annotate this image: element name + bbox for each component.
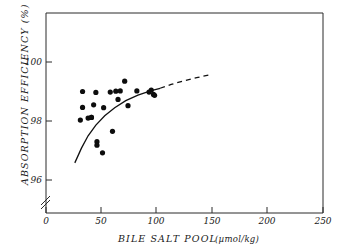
- data-point: [94, 143, 99, 148]
- data-point: [108, 89, 113, 94]
- data-point: [93, 90, 98, 95]
- data-point: [101, 105, 106, 110]
- x-tick-label-150: 150: [203, 216, 220, 226]
- x-tick-label-50: 50: [95, 216, 107, 226]
- x-axis-unit-label: (µmol/kg): [215, 234, 259, 244]
- data-point: [115, 97, 120, 102]
- y-axis-title: ABSORPTION EFFICIENCY (%): [19, 3, 30, 186]
- x-tick-label-200: 200: [257, 216, 275, 226]
- plot-frame: [46, 13, 323, 213]
- data-point: [122, 79, 127, 84]
- y-axis-ticks: [46, 62, 52, 180]
- data-point: [125, 103, 130, 108]
- data-point: [118, 88, 123, 93]
- data-point: [149, 87, 154, 92]
- figure-container: 100 98 96 0 50 100 150 200 250 BILE SALT…: [0, 0, 342, 252]
- data-point: [80, 89, 85, 94]
- x-axis-ticks: [46, 207, 323, 213]
- data-point: [89, 115, 94, 120]
- data-point: [100, 150, 105, 155]
- data-point: [152, 93, 157, 98]
- fit-curve-dashed: [160, 74, 212, 88]
- x-tick-label-0: 0: [43, 216, 49, 226]
- x-axis-title: BILE SALT POOL: [117, 233, 217, 244]
- x-tick-label-250: 250: [313, 216, 331, 226]
- y-tick-label-98: 98: [31, 116, 43, 126]
- data-point: [110, 129, 115, 134]
- data-point: [80, 105, 85, 110]
- x-tick-label-100: 100: [147, 216, 164, 226]
- data-point: [78, 118, 83, 123]
- data-point: [113, 89, 118, 94]
- y-tick-label-96: 96: [31, 175, 43, 185]
- data-point: [134, 88, 139, 93]
- data-point: [91, 102, 96, 107]
- scatter-points-group: [78, 79, 157, 156]
- scatter-plot: 100 98 96 0 50 100 150 200 250 BILE SALT…: [0, 0, 342, 252]
